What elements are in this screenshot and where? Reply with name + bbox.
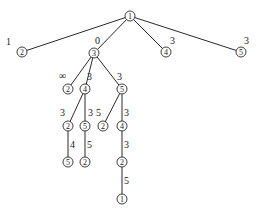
node-label: 2 [120,158,124,167]
edge-weight-label: 4 [70,139,75,150]
edge-weight-label: 5 [96,107,101,118]
tree-node: 2 [63,121,73,131]
tree-node: 1 [125,11,135,21]
tree-edge [68,89,85,126]
node-label: 5 [239,48,243,57]
tree-node: 2 [17,47,27,57]
tree-node: 2 [98,121,108,131]
tree-node: 2 [80,157,90,167]
edge-weight-label: 3 [244,35,249,46]
edge-weight-label: 0 [95,35,100,46]
node-label: 4 [120,122,124,131]
edge-weight-label: 3 [170,35,175,46]
tree-node: 5 [117,84,127,94]
edge-weight-label: 5 [124,175,129,186]
tree-diagram: 1033∞3333534535 1234524525245221 [0,0,260,216]
edge-weight-label: ∞ [59,70,66,81]
edge-weight-label: 3 [124,107,129,118]
tree-node: 2 [117,157,127,167]
node-label: 5 [120,85,124,94]
tree-node: 5 [80,121,90,131]
edge-weight-label: 1 [6,36,11,47]
tree-node: 5 [63,157,73,167]
tree-node: 1 [117,194,127,204]
node-label: 4 [164,48,168,57]
node-label: 2 [66,85,70,94]
edge-weight-label: 3 [88,107,93,118]
tree-node: 3 [89,48,99,58]
tree-node: 4 [80,84,90,94]
edge-weight-label: 3 [124,139,129,150]
node-label: 4 [83,85,87,94]
tree-edge [130,16,241,52]
node-label: 5 [66,158,70,167]
tree-node: 4 [117,121,127,131]
node-label: 3 [92,49,96,58]
edges-layer [22,16,241,199]
tree-node: 4 [161,47,171,57]
tree-edge [103,89,122,126]
node-label: 5 [83,122,87,131]
tree-node: 5 [236,47,246,57]
edge-weight-label: 3 [87,71,92,82]
edge-weight-label: 3 [60,107,65,118]
node-label: 2 [66,122,70,131]
node-label: 1 [128,12,132,21]
tree-node: 2 [63,84,73,94]
tree-edge [22,16,130,52]
edge-weight-label: 3 [117,71,122,82]
node-label: 2 [83,158,87,167]
node-label: 2 [20,48,24,57]
edge-weight-labels: 1033∞3333534535 [6,35,249,186]
nodes-layer: 1234524525245221 [17,11,246,204]
edge-weight-label: 5 [87,139,92,150]
node-label: 2 [101,122,105,131]
node-label: 1 [120,195,124,204]
